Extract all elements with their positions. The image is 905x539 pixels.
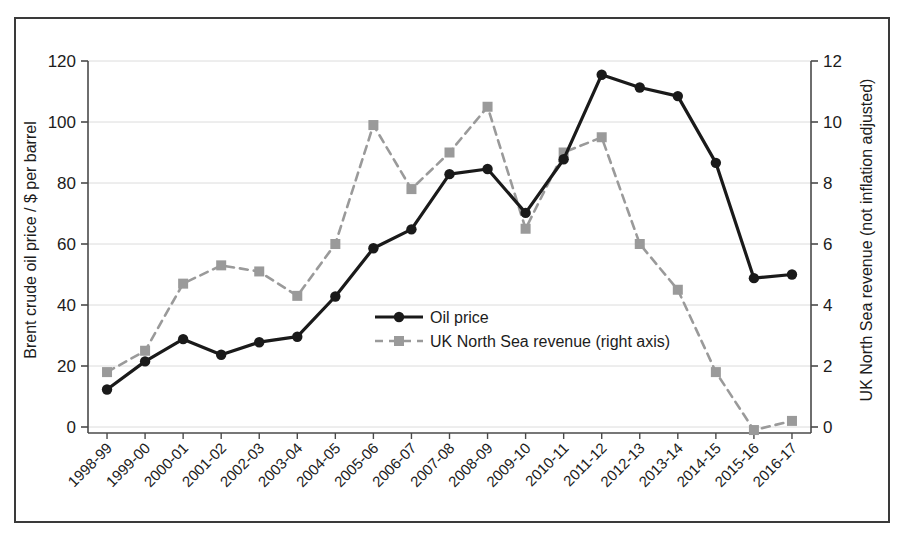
data-point-marker [749, 425, 759, 435]
y-axis-right-tick-label: 8 [823, 174, 832, 193]
data-point-marker [558, 154, 568, 164]
chart-container: 020406080100120 024681012 1998-991999-00… [0, 0, 905, 539]
series-revenue [102, 102, 797, 435]
y-axis-right-tick-label: 6 [823, 235, 832, 254]
data-point-marker [520, 208, 530, 218]
y-axis-right-tick-label: 2 [823, 357, 832, 376]
data-point-marker [673, 285, 683, 295]
data-point-marker [787, 416, 797, 426]
y-axis-left-tick-label: 100 [48, 113, 76, 132]
data-point-marker [292, 291, 302, 301]
y-axis-left-ticklabels: 020406080100120 [48, 52, 88, 437]
y-axis-left-tick-label: 20 [57, 357, 76, 376]
data-point-marker [444, 169, 454, 179]
legend-entry-label: Oil price [430, 309, 489, 326]
legend-swatch-marker [394, 312, 404, 322]
data-point-marker [102, 367, 112, 377]
data-point-marker [368, 243, 378, 253]
chart-svg: 020406080100120 024681012 1998-991999-00… [0, 0, 905, 539]
data-point-marker [254, 266, 264, 276]
data-point-marker [330, 291, 340, 301]
legend-swatch-marker [394, 336, 404, 346]
data-point-marker [216, 350, 226, 360]
data-point-marker [482, 164, 492, 174]
y-axis-left-tick-label: 120 [48, 52, 76, 71]
y-axis-left-title: Brent crude oil price / $ per barrel [22, 121, 39, 358]
data-point-marker [140, 346, 150, 356]
data-point-marker [445, 148, 455, 158]
y-axis-left-tick-label: 80 [57, 174, 76, 193]
data-point-marker [368, 120, 378, 130]
chart-legend: Oil priceUK North Sea revenue (right axi… [375, 309, 670, 350]
y-axis-left-tick-label: 40 [57, 296, 76, 315]
data-point-marker [406, 224, 416, 234]
legend-entry-label: UK North Sea revenue (right axis) [430, 333, 670, 350]
data-point-marker [749, 273, 759, 283]
data-point-marker [292, 332, 302, 342]
data-point-marker [673, 91, 683, 101]
y-axis-right-tick-label: 12 [823, 52, 842, 71]
data-point-marker [330, 239, 340, 249]
data-point-marker [521, 224, 531, 234]
x-axis-category-labels: 1998-991999-002000-012001-022002-032003-… [64, 433, 800, 490]
y-axis-right-tick-label: 10 [823, 113, 842, 132]
data-point-marker [711, 158, 721, 168]
y-axis-right-tick-label: 4 [823, 296, 832, 315]
legend-entry: Oil price [375, 309, 489, 326]
data-point-marker [597, 132, 607, 142]
data-point-marker [635, 82, 645, 92]
data-point-marker [635, 239, 645, 249]
legend-entry: UK North Sea revenue (right axis) [375, 333, 670, 350]
y-axis-left-tick-label: 0 [67, 418, 76, 437]
data-point-marker [711, 367, 721, 377]
data-point-marker [216, 260, 226, 270]
data-point-marker [406, 184, 416, 194]
data-point-marker [178, 334, 188, 344]
gridlines-group [88, 61, 811, 427]
y-axis-right-tick-label: 0 [823, 418, 832, 437]
data-point-marker [597, 70, 607, 80]
data-point-marker [178, 279, 188, 289]
data-point-marker [140, 356, 150, 366]
y-axis-right-title: UK North Sea revenue (not inflation adju… [858, 79, 875, 402]
y-axis-right-ticklabels: 024681012 [811, 52, 842, 437]
y-axis-left-tick-label: 60 [57, 235, 76, 254]
data-point-marker [787, 269, 797, 279]
data-point-marker [483, 102, 493, 112]
data-point-marker [102, 384, 112, 394]
data-point-marker [254, 337, 264, 347]
